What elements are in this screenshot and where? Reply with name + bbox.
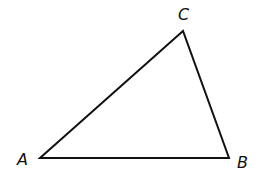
triangle-diagram: A B C xyxy=(0,0,263,185)
vertex-label-c: C xyxy=(178,5,190,24)
vertex-label-a: A xyxy=(16,150,28,169)
triangle-abc xyxy=(40,31,229,158)
vertex-label-b: B xyxy=(237,153,248,172)
